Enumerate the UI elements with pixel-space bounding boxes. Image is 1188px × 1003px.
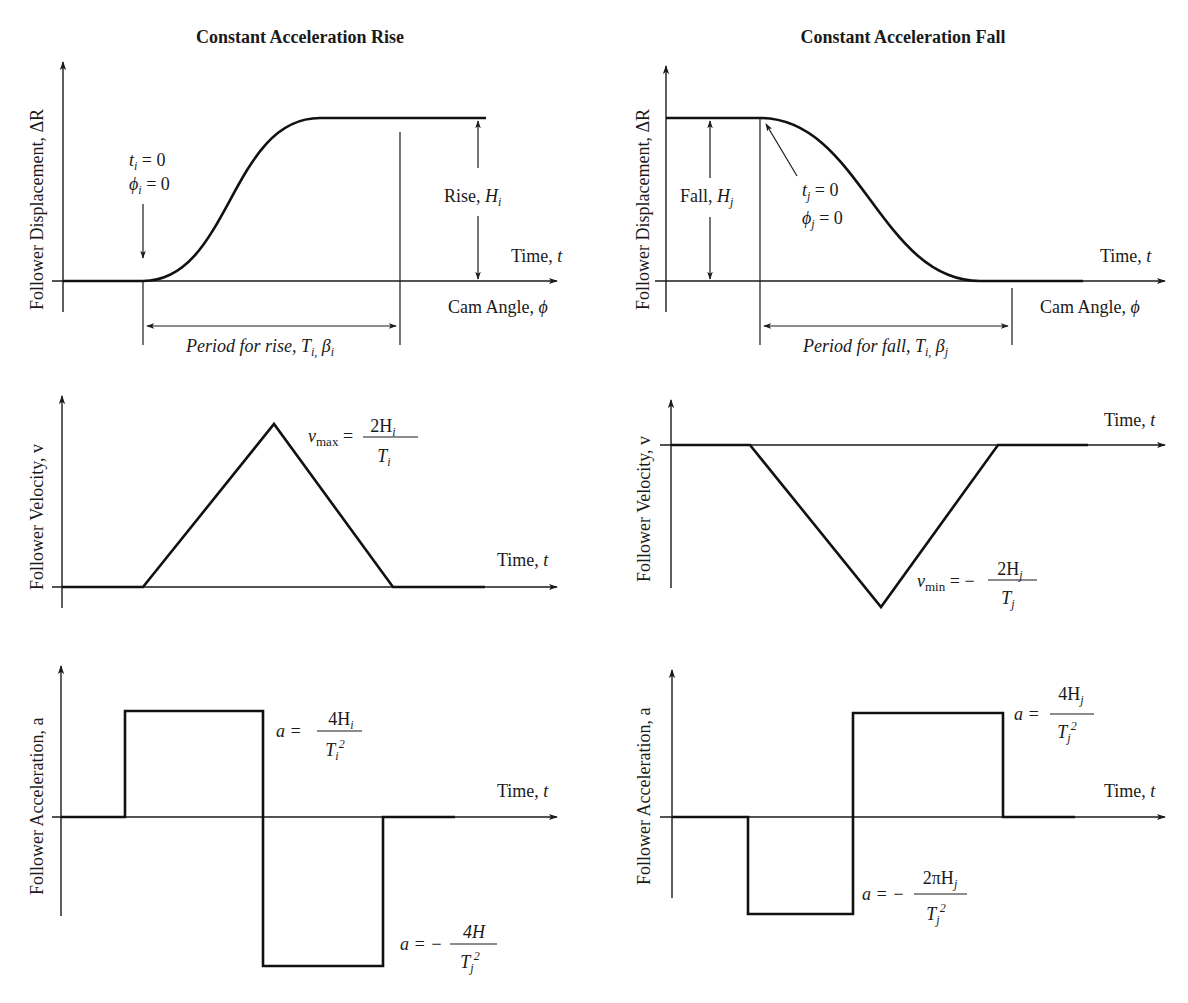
x-axis-time-label: Time, t: [1104, 781, 1156, 801]
y-axis-label: Follower Acceleration, a: [634, 708, 654, 885]
neg-accel-label: a = −: [862, 884, 904, 904]
pos-accel-denominator: Ti2: [325, 737, 344, 763]
neg-accel-numerator: 2πHj: [923, 868, 958, 891]
x-axis-time-label: Time, t: [497, 550, 549, 570]
start-t-label: tj = 0: [802, 180, 839, 203]
rise-displacement-plot: Follower Displacement, ΔR ti = 0 ϕi = 0 …: [27, 62, 563, 359]
period-label: Period for fall, Ti, βj: [802, 336, 949, 359]
cam-motion-diagram: Constant Acceleration Rise Constant Acce…: [0, 0, 1188, 1003]
start-phi-label: ϕj = 0: [802, 208, 843, 231]
right-title: Constant Acceleration Fall: [801, 27, 1006, 47]
pos-accel-numerator: 4Hj: [1058, 684, 1084, 707]
velocity-curve: [62, 424, 485, 587]
y-axis-label: Follower Displacement, ΔR: [27, 109, 47, 310]
pos-accel-numerator: 4Hi: [328, 709, 353, 732]
x-axis-time-label: Time, t: [1100, 246, 1152, 266]
vmin-denominator: Tj: [1001, 588, 1015, 611]
vmax-numerator: 2Hi: [370, 416, 395, 439]
start-t-label: ti = 0: [129, 150, 166, 173]
rise-velocity-plot: Follower Velocity, v Time, t vmax = 2Hi …: [27, 396, 557, 608]
pos-accel-label: a =: [1014, 704, 1040, 724]
rise-acceleration-plot: Follower Acceleration, a Time, t a = 4Hi…: [27, 666, 557, 975]
neg-accel-denominator: Tj2: [460, 949, 479, 975]
vmin-label: vmin = −: [917, 571, 975, 594]
pos-accel-denominator: Tj2: [1057, 719, 1076, 745]
x-axis-angle-label: Cam Angle, ϕ: [448, 297, 548, 317]
vmax-denominator: Ti: [377, 446, 390, 469]
fall-acceleration-plot: Follower Acceleration, a Time, t a = 4Hj…: [634, 670, 1165, 927]
start-pointer-arrow-icon: [766, 124, 797, 176]
fall-displacement-plot: Follower Displacement, ΔR Fall, Hj tj = …: [633, 66, 1165, 359]
fall-label: Fall, Hj: [680, 186, 734, 209]
displacement-curve: [63, 118, 486, 281]
start-phi-label: ϕi = 0: [129, 174, 170, 197]
x-axis-time-label: Time, t: [1104, 410, 1156, 430]
rise-label: Rise, Hi: [444, 186, 501, 209]
vmax-label: vmax =: [308, 426, 353, 449]
y-axis-label: Follower Acceleration, a: [27, 718, 47, 895]
x-axis-time-label: Time, t: [511, 246, 563, 266]
velocity-curve: [671, 445, 1088, 607]
y-axis-label: Follower Velocity, v: [634, 436, 654, 582]
period-label: Period for rise, Ti, βi: [185, 336, 334, 359]
x-axis-time-label: Time, t: [497, 781, 549, 801]
neg-accel-label: a = −: [400, 934, 442, 954]
neg-accel-numerator: 4H: [463, 922, 486, 942]
pos-accel-label: a =: [276, 721, 302, 741]
vmin-numerator: 2Hj: [997, 559, 1023, 582]
acceleration-curve: [61, 711, 455, 966]
x-axis-angle-label: Cam Angle, ϕ: [1040, 297, 1140, 317]
fall-velocity-plot: Follower Velocity, v Time, t vmin = − 2H…: [634, 400, 1165, 611]
left-title: Constant Acceleration Rise: [196, 27, 404, 47]
y-axis-label: Follower Velocity, v: [27, 444, 47, 590]
neg-accel-denominator: Tj2: [926, 901, 945, 927]
y-axis-label: Follower Displacement, ΔR: [633, 109, 653, 310]
